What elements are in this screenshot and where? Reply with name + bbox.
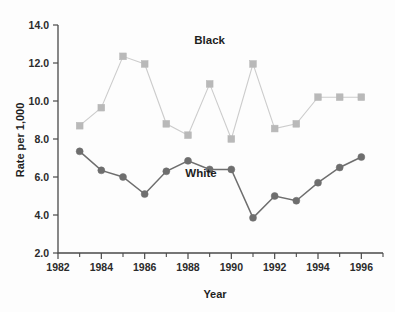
x-tick-label-4: 1990 (220, 261, 244, 273)
y-tick-label-0: 14.0 (29, 19, 50, 31)
data-point-white-1990 (228, 166, 235, 173)
data-point-white-1983 (76, 148, 83, 155)
data-point-black-1996 (358, 94, 365, 101)
data-point-black-1990 (228, 136, 235, 143)
y-tick-label-4: 6.0 (34, 171, 49, 183)
data-point-black-1984 (98, 104, 105, 111)
x-tick-label-0: 1982 (46, 261, 70, 273)
data-point-black-1983 (76, 122, 83, 129)
y-tick-label-5: 4.0 (34, 209, 49, 221)
data-point-white-1992 (271, 193, 278, 200)
line-chart: 14.012.010.08.06.04.02.0 198219841986198… (0, 0, 395, 312)
chart-container: 14.012.010.08.06.04.02.0 198219841986198… (0, 0, 395, 312)
y-tick-label-3: 8.0 (34, 133, 49, 145)
x-tick-label-2: 1986 (133, 261, 157, 273)
data-point-white-1996 (358, 154, 365, 161)
data-point-black-1987 (163, 120, 170, 127)
data-point-black-1989 (206, 81, 213, 88)
x-tick-label-3: 1988 (176, 261, 200, 273)
data-point-white-1984 (98, 167, 105, 174)
x-tick-label-6: 1994 (306, 261, 330, 273)
data-point-white-1991 (250, 214, 257, 221)
data-point-black-1992 (271, 125, 278, 132)
series-label-black: Black (194, 34, 225, 46)
data-point-black-1993 (293, 120, 300, 127)
x-tick-label-7: 1996 (350, 261, 374, 273)
data-point-white-1985 (120, 174, 127, 181)
data-point-white-1995 (336, 164, 343, 171)
x-tick-label-1: 1984 (90, 261, 114, 273)
data-point-white-1993 (293, 197, 300, 204)
data-point-white-1986 (141, 191, 148, 198)
data-point-black-1985 (120, 53, 127, 60)
y-axis-title: Rate per 1,000 (14, 103, 26, 178)
data-point-black-1988 (185, 132, 192, 139)
data-point-white-1994 (315, 179, 322, 186)
data-point-white-1987 (163, 168, 170, 175)
x-axis-title: Year (203, 288, 227, 300)
x-tick-label-5: 1992 (263, 261, 287, 273)
data-point-black-1995 (336, 94, 343, 101)
series-label-white: White (185, 167, 216, 179)
data-point-black-1986 (141, 61, 148, 68)
data-point-white-1988 (185, 157, 192, 164)
y-tick-label-2: 10.0 (29, 95, 50, 107)
data-point-black-1991 (250, 61, 257, 68)
y-tick-label-6: 2.0 (34, 247, 49, 259)
y-tick-label-1: 12.0 (29, 57, 50, 69)
data-point-black-1994 (315, 94, 322, 101)
